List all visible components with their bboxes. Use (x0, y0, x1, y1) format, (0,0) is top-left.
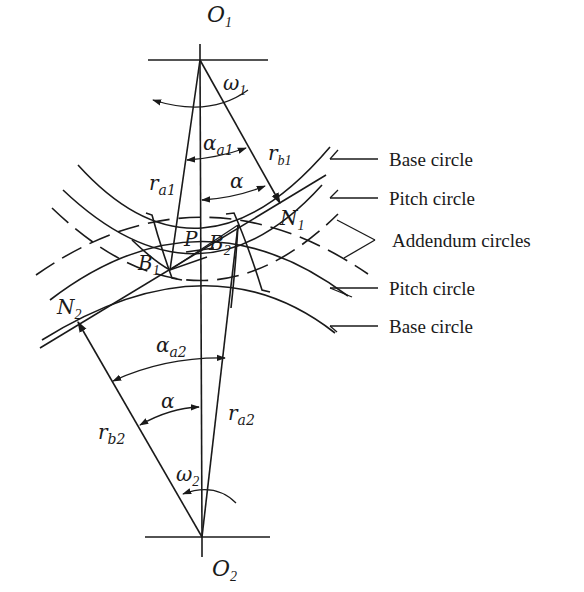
label-p: P (183, 227, 198, 251)
callout-base-circle-2: Base circle (389, 316, 473, 337)
alpha-a2-arc (113, 358, 225, 381)
label-rb2: rb2 (98, 420, 126, 447)
callout-pitch-circle-1: Pitch circle (389, 188, 475, 209)
callout-leaders (330, 150, 378, 332)
label-ra1: ra1 (149, 171, 176, 198)
label-omega1: ω1 (223, 71, 246, 98)
center-o1 (148, 44, 268, 60)
callout-base-circle-1: Base circle (389, 149, 473, 170)
label-alpha-a2: αa2 (156, 333, 187, 360)
label-o1: O1 (207, 2, 232, 30)
callout-addendum-circles: Addendum circles (392, 230, 531, 251)
label-b1: B1 (137, 251, 160, 278)
tooth-profile-gear2-flank (231, 225, 238, 308)
line-of-centers (200, 60, 202, 537)
callout-pitch-circle-2: Pitch circle (389, 278, 475, 299)
label-n1: N1 (279, 206, 305, 233)
addendum-circle-2 (36, 217, 368, 275)
label-alpha-bottom: α (161, 389, 175, 413)
tooth-profile-gear2 (226, 213, 270, 292)
label-alpha-a1: αa1 (203, 131, 234, 158)
base-circle-2 (42, 286, 335, 340)
label-omega2: ω2 (176, 462, 199, 489)
label-rb1: rb1 (268, 141, 292, 168)
label-ra2: ra2 (228, 401, 255, 428)
gear-mesh-diagram: O1 O2 P N1 N2 B1 B2 ω1 ω2 αa1 α αa2 α ra… (0, 0, 584, 592)
omega2-arc (183, 490, 236, 503)
label-o2: O2 (212, 556, 237, 584)
center-o2 (145, 537, 270, 557)
label-alpha-top: α (230, 169, 244, 193)
label-n2: N2 (56, 295, 82, 322)
